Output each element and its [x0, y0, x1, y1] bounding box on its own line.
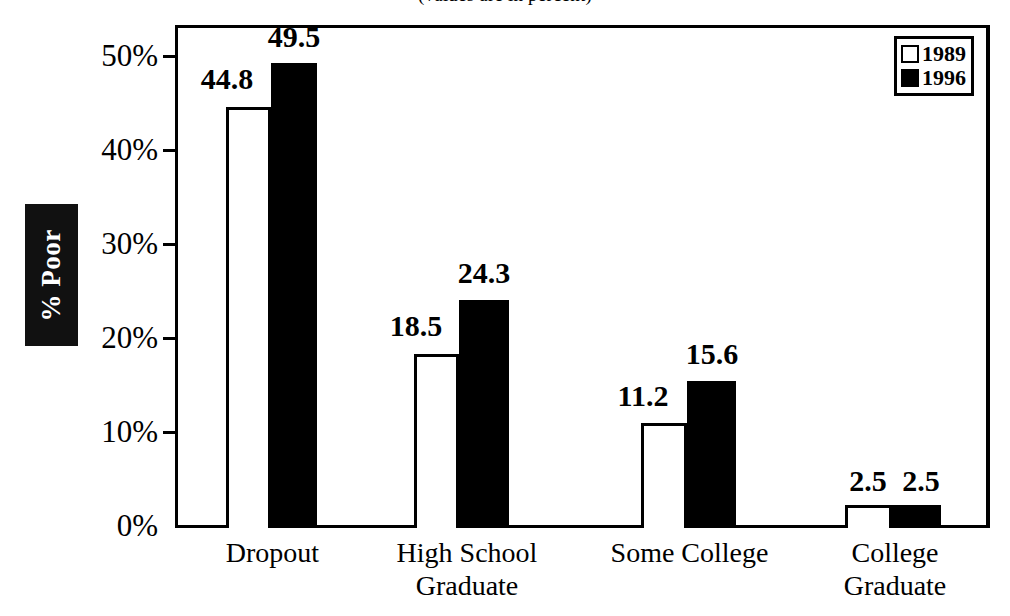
- x-category-line: Graduate: [372, 569, 562, 602]
- x-category-line: College: [800, 536, 990, 569]
- x-category-label-some-college: Some College: [592, 536, 787, 569]
- value-label-1996-dropout: 49.5: [248, 22, 340, 52]
- x-category-line: High School: [372, 536, 562, 569]
- y-tick-label-50: 50%: [38, 40, 158, 71]
- bar-1989-some-college: [641, 423, 687, 528]
- y-tick-label-0: 0%: [38, 510, 158, 541]
- bar-1996-dropout: [271, 63, 317, 528]
- legend-item-1996: 1996: [901, 66, 966, 90]
- value-label-1996-college-graduate: 2.5: [877, 466, 965, 496]
- bar-1996-high-school-graduate: [459, 300, 509, 528]
- x-category-label-dropout: Dropout: [180, 536, 365, 569]
- y-tick-label-30: 30%: [38, 228, 158, 259]
- bar-1996-college-graduate: [892, 505, 941, 528]
- value-label-1996-high-school-graduate: 24.3: [438, 258, 530, 288]
- x-category-label-college-graduate: College Graduate: [800, 536, 990, 602]
- x-category-line: Graduate: [800, 569, 990, 602]
- y-tick-label-10: 10%: [38, 416, 158, 447]
- value-label-1989-dropout: 44.8: [181, 64, 273, 94]
- legend-swatch-filled-icon: [901, 69, 919, 87]
- legend-label-1996: 1996: [922, 67, 966, 89]
- x-category-line: Dropout: [180, 536, 365, 569]
- x-category-label-high-school-graduate: High School Graduate: [372, 536, 562, 602]
- bar-1989-high-school-graduate: [414, 354, 459, 528]
- x-category-line: Some College: [592, 536, 787, 569]
- legend-item-1989: 1989: [901, 42, 966, 66]
- legend: 1989 1996: [894, 36, 974, 96]
- y-tick-label-40: 40%: [38, 134, 158, 165]
- y-tick-label-20: 20%: [38, 322, 158, 353]
- value-label-1989-some-college: 11.2: [597, 381, 689, 411]
- value-label-1989-high-school-graduate: 18.5: [370, 311, 462, 341]
- chart-title: (values are in percent): [0, 0, 1010, 6]
- bar-1989-dropout: [226, 107, 271, 528]
- bar-1996-some-college: [687, 381, 736, 528]
- bar-1989-college-graduate: [845, 505, 892, 528]
- bar-chart: (values are in percent) % Poor 50% 40% 3…: [0, 0, 1010, 616]
- legend-label-1989: 1989: [922, 43, 966, 65]
- value-label-1996-some-college: 15.6: [666, 339, 758, 369]
- legend-swatch-hollow-icon: [901, 45, 919, 63]
